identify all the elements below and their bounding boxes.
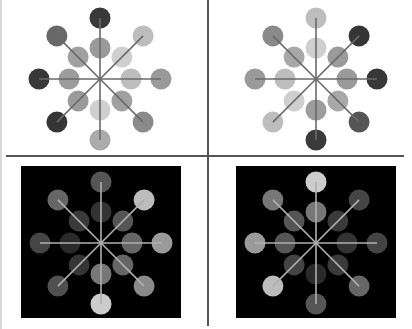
horizontal-divider	[6, 155, 404, 157]
panel-bottom-left-black-background	[21, 166, 181, 318]
panel-top-right-white-background	[236, 2, 396, 154]
radial-circle-diagram-bottom-left	[21, 166, 181, 318]
vertical-divider	[207, 0, 209, 326]
radial-circle-diagram-bottom-right	[236, 166, 396, 318]
radial-circle-diagram-top-left	[20, 2, 180, 154]
page-left-edge	[0, 0, 2, 329]
panel-bottom-right-black-background	[236, 166, 396, 318]
radial-circle-diagram-top-right	[236, 2, 396, 154]
panel-top-left-white-background	[20, 2, 180, 154]
